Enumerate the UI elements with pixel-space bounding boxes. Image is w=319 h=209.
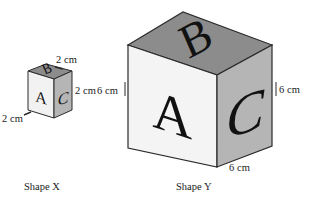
shape-x-letter-a: A (35, 87, 47, 109)
cubes-illustration: B A C B (0, 0, 319, 209)
shape-x-caption: Shape X (24, 182, 60, 193)
shape-x-dim-top: 2 cm (56, 55, 77, 66)
shape-x-leader-front (24, 112, 31, 115)
shape-y-caption: Shape Y (176, 182, 211, 193)
shape-y-dim-right: 6 cm (279, 85, 300, 96)
svg-text:A: A (35, 87, 47, 109)
figure-canvas: B A C B (0, 0, 319, 209)
shape-x-cube: B A C (24, 59, 72, 118)
shape-x-letter-c: C (58, 87, 70, 109)
svg-text:C: C (58, 87, 70, 109)
shape-y-dim-front: 6 cm (229, 163, 250, 174)
shape-y-cube: B A C (125, 7, 276, 167)
shape-y-dim-left: 6 cm (97, 86, 118, 97)
shape-x-dim-right: 2 cm (75, 86, 96, 97)
shape-x-dim-front: 2 cm (2, 114, 23, 125)
